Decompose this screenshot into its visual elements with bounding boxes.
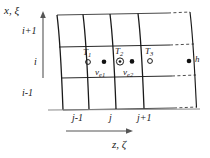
node-marker-ve1 bbox=[102, 60, 107, 65]
node-marker-h bbox=[187, 59, 192, 64]
column-index-j-minus-1: j-1 bbox=[72, 113, 83, 123]
dashed-connectors bbox=[168, 12, 197, 108]
vertical-axis bbox=[40, 11, 46, 78]
node-label-t2: T2 bbox=[115, 47, 123, 56]
horizontal-axis-line bbox=[48, 109, 200, 110]
node-marker-t3 bbox=[148, 59, 153, 64]
row-index-i-plus-1: i+1 bbox=[22, 26, 37, 36]
node-marker-t2 bbox=[116, 58, 123, 65]
grid-columns bbox=[57, 12, 197, 110]
node-label-t1: T1 bbox=[83, 48, 91, 57]
vertical-axis-label: x, ξ bbox=[4, 5, 19, 16]
node-label-h: h bbox=[195, 55, 200, 64]
row-index-i-minus-1: i-1 bbox=[22, 88, 33, 98]
column-index-j-plus-1: j+1 bbox=[137, 113, 152, 123]
horizontal-axis-label: z, ζ bbox=[112, 139, 126, 150]
node-label-t3: T3 bbox=[145, 47, 153, 56]
node-marker-ve2 bbox=[130, 59, 135, 64]
column-index-j: j bbox=[109, 113, 112, 123]
horizontal-axis-arrow bbox=[66, 128, 133, 134]
node-label-ve1: νe1 bbox=[95, 68, 105, 77]
grid-diagram bbox=[0, 0, 210, 158]
row-index-i: i bbox=[34, 57, 37, 67]
node-label-ve2: νe2 bbox=[123, 68, 133, 77]
